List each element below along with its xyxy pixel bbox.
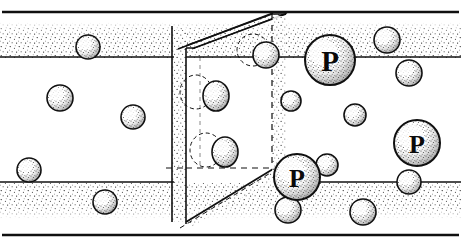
small-particle bbox=[350, 199, 376, 225]
large-particle-p1: P bbox=[305, 35, 355, 85]
large-particle-p3: P bbox=[394, 120, 440, 166]
large-particle-label: P bbox=[321, 45, 339, 77]
small-particle bbox=[17, 158, 41, 182]
small-particle bbox=[344, 104, 366, 126]
figure-canvas: PPP bbox=[0, 0, 461, 247]
small-particle bbox=[212, 137, 238, 167]
small-particle bbox=[121, 105, 145, 129]
small-particle bbox=[253, 42, 279, 68]
small-particle bbox=[203, 81, 229, 111]
small-particle bbox=[76, 35, 100, 59]
membrane-left-pillar-fill bbox=[172, 30, 186, 222]
small-particle bbox=[47, 85, 73, 111]
small-particle bbox=[93, 190, 117, 214]
large-particle-label: P bbox=[289, 164, 305, 193]
small-particle bbox=[396, 60, 422, 86]
small-particle bbox=[397, 170, 421, 194]
large-particle-label: P bbox=[409, 130, 425, 159]
membrane-filtration-figure: Perspective cut-away of a porous membran… bbox=[0, 0, 461, 247]
small-particle bbox=[281, 91, 301, 111]
large-particle-p2: P bbox=[274, 154, 320, 200]
small-particle bbox=[374, 27, 400, 53]
